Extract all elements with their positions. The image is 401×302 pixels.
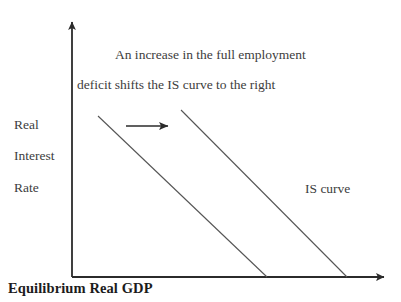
- caption-line-2: deficit shifts the IS curve to the right: [77, 78, 275, 92]
- is-curve-label: IS curve: [305, 182, 350, 196]
- caption-line-1: An increase in the full employment: [115, 48, 306, 62]
- x-axis-title: Equilibrium Real GDP: [8, 281, 153, 296]
- y-axis-label-real: Real: [14, 118, 39, 132]
- figure-canvas: An increase in the full employment defic…: [0, 0, 401, 302]
- y-axis-label-rate: Rate: [14, 181, 39, 195]
- plot-area: [0, 0, 401, 302]
- is-curve-original: [98, 116, 267, 277]
- y-axis-label-interest: Interest: [14, 149, 54, 163]
